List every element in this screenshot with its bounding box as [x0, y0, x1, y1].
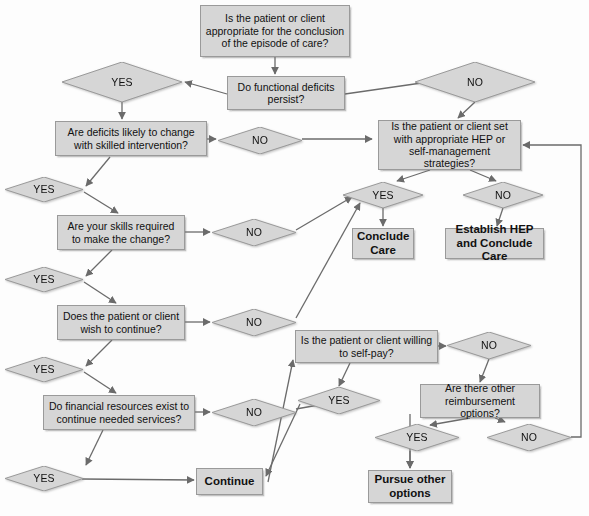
node-label: Do financial resources exist to continue… [48, 400, 190, 425]
decision-yes-wish-to-continue[interactable]: YES [5, 357, 83, 382]
decision-yes-skills-required[interactable]: YES [5, 267, 83, 292]
node-functional-deficits-question[interactable]: Do functional deficits persist? [227, 76, 345, 110]
node-financial-resources-question[interactable]: Do financial resources exist to continue… [43, 395, 195, 430]
decision-yes-hep-set[interactable]: YES [343, 182, 423, 208]
node-deficits-likely-change-question[interactable]: Are deficits likely to change with skill… [55, 121, 207, 156]
decision-no-self-pay[interactable]: NO [447, 332, 531, 359]
decision-label: YES [328, 394, 350, 406]
node-continue[interactable]: Continue [196, 468, 263, 495]
edge-d10-n10 [480, 359, 489, 382]
node-label: Do functional deficits persist? [232, 81, 340, 106]
node-label: Is the patient or client appropriate for… [205, 12, 345, 49]
edge-n5-d8 [86, 250, 112, 276]
node-establish-hep-and-conclude-care[interactable]: Establish HEP and Conclude Care [445, 228, 544, 259]
edge-n9-d12 [339, 363, 350, 386]
node-willing-to-self-pay-question[interactable]: Is the patient or client willing to self… [295, 330, 438, 363]
node-label: Conclude Care [357, 230, 409, 257]
decision-label: NO [495, 189, 511, 201]
decision-no-deficits-change[interactable]: NO [218, 127, 302, 154]
edge-n4-d5 [397, 170, 430, 181]
decision-label: NO [252, 134, 268, 146]
edge-n11-d16 [86, 430, 103, 465]
decision-label: NO [246, 406, 262, 418]
node-label: Is the patient or client willing to self… [300, 334, 433, 359]
decision-label: YES [111, 76, 133, 88]
decision-no-reimbursement-options[interactable]: NO [487, 424, 571, 451]
edge-d9-d5 [296, 203, 360, 318]
edge-n8-d11 [86, 340, 112, 366]
decision-label: YES [33, 363, 55, 375]
edge-n3-d4 [86, 157, 110, 186]
node-hep-self-management-question[interactable]: Is the patient or client set with approp… [378, 120, 521, 170]
node-wish-to-continue-question[interactable]: Does the patient or client wish to conti… [57, 305, 185, 340]
decision-yes-deficits-change[interactable]: YES [5, 177, 83, 202]
node-label: Are your skills required to make the cha… [62, 220, 180, 245]
decision-no-skills-required[interactable]: NO [212, 219, 296, 246]
edge-d11-n11 [84, 372, 116, 393]
flowchart-canvas: Is the patient or client appropriate for… [0, 0, 589, 516]
node-reimbursement-options-question[interactable]: Are there other reimbursement options? [420, 384, 540, 418]
node-pursue-other-options[interactable]: Pursue other options [368, 470, 452, 503]
decision-no-wish-to-continue[interactable]: NO [212, 309, 296, 336]
decision-label: YES [372, 189, 394, 201]
decision-label: NO [521, 431, 537, 443]
decision-label: NO [467, 76, 483, 88]
edge-n2-d1 [185, 82, 227, 94]
node-skills-required-question[interactable]: Are your skills required to make the cha… [57, 215, 185, 250]
decision-label: NO [246, 226, 262, 238]
decision-no-hep-set[interactable]: NO [463, 182, 543, 208]
node-label: Continue [201, 475, 258, 489]
decision-yes-reimbursement-options[interactable]: YES [375, 424, 459, 451]
node-conclude-care[interactable]: Conclude Care [352, 228, 414, 259]
edge-d4-n5 [84, 192, 118, 213]
node-label: Are deficits likely to change with skill… [60, 126, 202, 151]
decision-no-financial-resources[interactable]: NO [212, 399, 296, 426]
decision-label: YES [406, 431, 428, 443]
node-label: Are there other reimbursement options? [425, 382, 535, 419]
edge-d8-n8 [84, 282, 116, 303]
node-label: Does the patient or client wish to conti… [62, 310, 180, 335]
decision-label: YES [33, 183, 55, 195]
decision-label: NO [246, 316, 262, 328]
edge-n4-d6 [470, 170, 496, 181]
edge-d16-n12 [82, 479, 194, 480]
decision-label: YES [33, 273, 55, 285]
decision-no-deficits-persist[interactable]: NO [415, 62, 535, 102]
decision-yes-deficits-persist[interactable]: YES [62, 62, 182, 102]
decision-label: NO [481, 339, 497, 351]
edge-d2-n4 [458, 102, 475, 118]
node-episode-of-care-question[interactable]: Is the patient or client appropriate for… [200, 5, 350, 57]
node-label: Pursue other options [373, 473, 447, 500]
decision-yes-financial-resources[interactable]: YES [5, 466, 83, 491]
node-label: Is the patient or client set with approp… [383, 120, 516, 170]
node-label: Establish HEP and Conclude Care [450, 223, 539, 264]
decision-label: YES [33, 472, 55, 484]
decision-yes-self-pay[interactable]: YES [298, 387, 380, 414]
